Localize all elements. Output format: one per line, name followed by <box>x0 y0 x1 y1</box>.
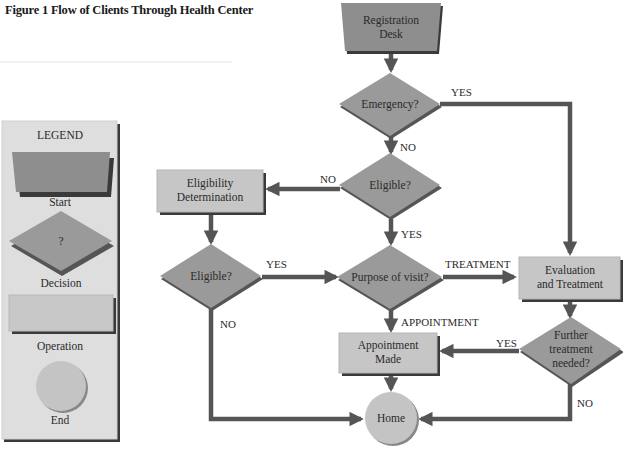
legend-operation-label: Operation <box>37 340 83 353</box>
svg-text:and Treatment: and Treatment <box>537 278 604 290</box>
edge-further-no <box>421 384 570 419</box>
svg-text:Registration: Registration <box>363 14 419 27</box>
svg-text:?: ? <box>58 235 63 247</box>
node-home-end: Home <box>365 392 419 446</box>
svg-text:Made: Made <box>375 353 401 365</box>
svg-text:Emergency?: Emergency? <box>361 98 418 111</box>
legend-decision-label: Decision <box>41 277 82 289</box>
svg-text:Determination: Determination <box>177 191 244 203</box>
svg-text:Eligible?: Eligible? <box>190 270 232 283</box>
label-eligible-left-no: NO <box>220 318 236 330</box>
svg-text:Eligible?: Eligible? <box>369 179 411 192</box>
node-eligible-left-decision: Eligible? <box>160 244 263 311</box>
node-eligible-center-decision: Eligible? <box>339 153 442 220</box>
svg-text:treatment: treatment <box>549 343 593 355</box>
node-appointment-made: Appointment Made <box>339 333 440 376</box>
label-eligible-no: NO <box>320 173 336 185</box>
legend-start-shape <box>12 152 114 197</box>
legend-end-label: End <box>51 414 70 426</box>
label-eligible-yes: YES <box>401 228 422 240</box>
label-treatment: TREATMENT <box>445 258 511 270</box>
label-further-yes: YES <box>496 337 517 349</box>
label-further-no: NO <box>577 397 593 409</box>
label-emergency-no: NO <box>400 141 416 153</box>
edge-emergency-yes <box>440 104 570 253</box>
node-emergency-decision: Emergency? <box>339 73 442 139</box>
node-evaluation-treatment: Evaluation and Treatment <box>519 257 623 302</box>
legend-heading: LEGEND <box>37 129 83 141</box>
svg-text:Desk: Desk <box>379 28 403 40</box>
node-further-treatment-decision: Further treatment needed? <box>519 317 623 387</box>
legend-panel: LEGEND Start ? Decision Operation End <box>2 121 120 442</box>
svg-text:needed?: needed? <box>552 357 590 369</box>
legend-start-label: Start <box>49 196 72 208</box>
node-purpose-decision: Purpose of visit? <box>337 245 444 312</box>
label-eligible-left-yes: YES <box>266 258 287 270</box>
node-eligibility-determination: Eligibility Determination <box>157 170 266 215</box>
svg-text:Appointment: Appointment <box>358 339 419 352</box>
svg-text:Evaluation: Evaluation <box>545 264 595 276</box>
legend-operation-shape <box>9 295 116 334</box>
svg-text:Home: Home <box>377 412 405 424</box>
svg-text:Purpose of visit?: Purpose of visit? <box>351 271 428 284</box>
node-registration-desk: Registration Desk <box>341 3 443 54</box>
label-appointment: APPOINTMENT <box>401 316 479 328</box>
label-emergency-yes: YES <box>451 86 472 98</box>
svg-text:Further: Further <box>554 329 588 341</box>
svg-text:Eligibility: Eligibility <box>187 177 234 190</box>
flowchart: LEGEND Start ? Decision Operation End <box>0 0 623 452</box>
